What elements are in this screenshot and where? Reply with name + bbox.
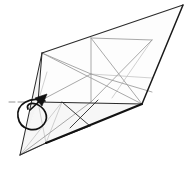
origami-diagram xyxy=(0,0,189,176)
origami-figure xyxy=(0,0,189,176)
upper-paper-panel xyxy=(38,5,183,104)
